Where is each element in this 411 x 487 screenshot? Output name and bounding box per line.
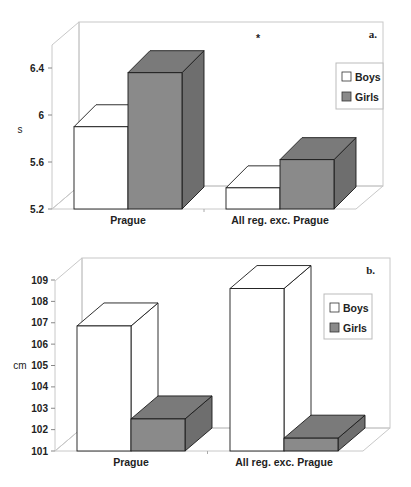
y-tick-label: 104 xyxy=(31,381,48,392)
bar-front xyxy=(74,127,128,209)
y-tick-label: 6.4 xyxy=(30,63,44,74)
significance-star: * xyxy=(256,32,261,44)
y-tick-label: 105 xyxy=(31,360,48,371)
panel-label: a. xyxy=(369,28,378,40)
x-category-label: All reg. exc. Prague xyxy=(235,456,333,468)
chart-panel-a: 5.25.666.4sPragueAll reg. exc. Praguea.*… xyxy=(18,22,384,226)
y-tick-label: 106 xyxy=(31,339,48,350)
x-category-label: Prague xyxy=(113,456,149,468)
bar-boys-other-regions xyxy=(230,266,311,451)
legend-swatch-girls xyxy=(330,323,339,332)
y-tick-label: 5.6 xyxy=(30,157,44,168)
y-axis-label: cm xyxy=(13,360,26,371)
y-tick-label: 6 xyxy=(38,110,44,121)
bar-front xyxy=(284,438,338,451)
y-tick-label: 103 xyxy=(31,403,48,414)
bar-front xyxy=(230,289,284,451)
y-axis-label: s xyxy=(18,124,23,135)
legend-label-girls: Girls xyxy=(343,322,367,334)
chart-panel-b: 101102103104105106107108109cmPragueAll r… xyxy=(13,258,390,468)
bar-front xyxy=(131,419,185,451)
bar-front xyxy=(77,326,131,451)
y-tick-label: 108 xyxy=(31,296,48,307)
legend: BoysGirls xyxy=(324,294,372,339)
x-category-label: Prague xyxy=(110,214,146,226)
y-tick-label: 107 xyxy=(31,317,48,328)
bar-girls-other-regions xyxy=(280,138,356,209)
bar-side xyxy=(182,51,204,209)
legend-swatch-girls xyxy=(342,92,351,101)
y-tick-label: 102 xyxy=(31,424,48,435)
figure: 5.25.666.4sPragueAll reg. exc. Praguea.*… xyxy=(0,0,411,487)
y-tick-label: 101 xyxy=(31,446,48,457)
legend-swatch-boys xyxy=(330,303,339,312)
bar-front xyxy=(128,73,182,209)
legend-label-boys: Boys xyxy=(355,71,381,83)
legend-label-girls: Girls xyxy=(355,91,379,103)
bar-front xyxy=(280,160,334,209)
y-tick-label: 109 xyxy=(31,275,48,286)
panel-label: b. xyxy=(366,264,375,276)
bar-front xyxy=(226,188,280,209)
legend-swatch-boys xyxy=(342,72,351,81)
bar-girls-prague xyxy=(128,51,204,209)
legend: BoysGirls xyxy=(336,63,383,109)
legend-label-boys: Boys xyxy=(343,302,369,314)
x-category-label: All reg. exc. Prague xyxy=(231,214,329,226)
y-tick-label: 5.2 xyxy=(30,204,44,215)
